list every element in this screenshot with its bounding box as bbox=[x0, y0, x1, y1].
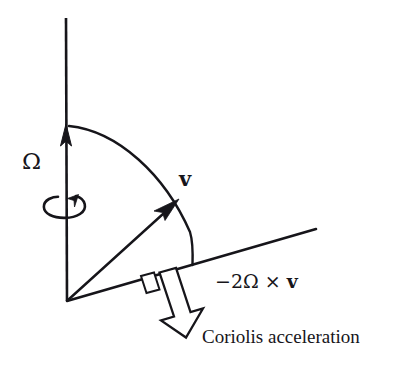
coriolis-diagram bbox=[0, 0, 402, 372]
label-velocity: v bbox=[179, 168, 191, 189]
hollow-coriolis-arrow bbox=[160, 268, 204, 338]
label-angular-velocity: Ω bbox=[22, 150, 41, 173]
rotation-curl-arrow bbox=[44, 196, 85, 218]
label-coriolis-caption: Coriolis acceleration bbox=[202, 327, 360, 346]
vertical-rotation-axis bbox=[66, 18, 67, 301]
label-coriolis-vector-v: v bbox=[287, 270, 298, 292]
label-coriolis-vector: −2Ω × v bbox=[215, 272, 298, 291]
figure-root: Ω v −2Ω × v Coriolis acceleration bbox=[0, 0, 402, 372]
label-coriolis-vector-expr: −2Ω × bbox=[215, 270, 287, 292]
rotation-curl-arrowhead bbox=[68, 195, 79, 208]
